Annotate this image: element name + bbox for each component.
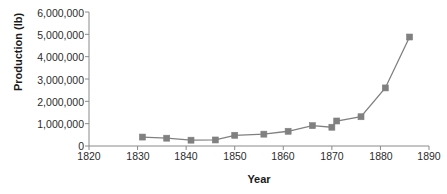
data-point: [382, 85, 388, 91]
data-point: [358, 114, 364, 120]
data-point: [329, 124, 335, 130]
production-line-chart: Production (lb) 6,000,000 5,000,000 4,00…: [0, 0, 447, 194]
data-point: [188, 137, 194, 143]
axes: [85, 12, 429, 150]
data-point: [309, 123, 315, 129]
data-point: [407, 34, 413, 40]
plot-area: [0, 0, 447, 194]
data-point: [139, 134, 145, 140]
series-line: [142, 37, 409, 140]
data-point: [164, 135, 170, 141]
data-point: [232, 132, 238, 138]
data-point: [285, 128, 291, 134]
series-markers: [139, 34, 412, 143]
data-point: [261, 131, 267, 137]
data-point: [212, 137, 218, 143]
data-point: [334, 118, 340, 124]
